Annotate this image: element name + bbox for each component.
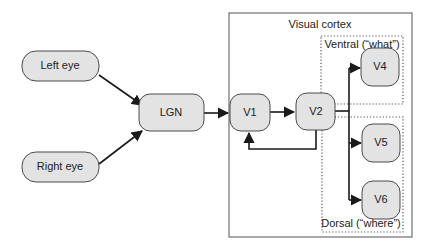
- node-v2: V2: [296, 93, 335, 130]
- node-v6-label: V6: [374, 193, 387, 205]
- node-v4-label: V4: [373, 60, 386, 72]
- node-v1-label: V1: [243, 106, 256, 118]
- node-v5: V5: [362, 124, 400, 162]
- node-v1: V1: [230, 94, 270, 131]
- node-left-eye: Left eye: [22, 51, 99, 81]
- node-v2-label: V2: [309, 105, 322, 117]
- node-right-eye-label: Right eye: [37, 160, 83, 172]
- edge-v2-to-v1-feedback: [249, 129, 316, 149]
- node-v6: V6: [362, 181, 400, 219]
- edge-left-eye-to-lgn: [99, 75, 142, 105]
- node-left-eye-label: Left eye: [40, 59, 79, 71]
- visual-pathway-diagram: Visual cortex Ventral (“what”) Dorsal (“…: [0, 0, 430, 249]
- node-v5-label: V5: [374, 136, 387, 148]
- edge-right-eye-to-lgn: [99, 131, 142, 164]
- visual-cortex-label: Visual cortex: [289, 18, 352, 30]
- node-v4: V4: [361, 48, 399, 86]
- node-lgn-label: LGN: [160, 106, 183, 118]
- node-lgn: LGN: [139, 94, 204, 131]
- node-right-eye: Right eye: [22, 152, 99, 182]
